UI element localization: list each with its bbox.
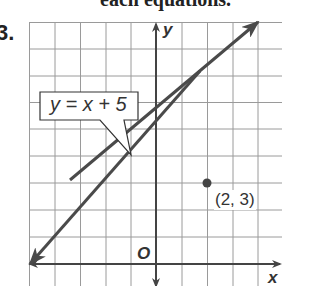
x-axis-label: x (268, 268, 277, 286)
origin-label: O (137, 244, 150, 264)
point-marker (203, 179, 212, 188)
y-axis-label: y (163, 20, 172, 40)
point-label: (2, 3) (214, 190, 256, 210)
line-equation-label: y = x + 5 (50, 93, 127, 116)
